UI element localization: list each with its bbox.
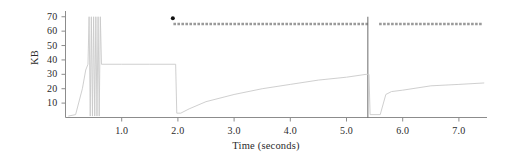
x-axis-tick-marks: [122, 118, 459, 122]
y-tick-label: 20: [28, 83, 58, 94]
line-chart: [0, 0, 512, 162]
x-tick-label: 2.0: [158, 125, 198, 136]
x-tick-label: 6.0: [383, 125, 423, 136]
marker-group: [171, 16, 175, 20]
x-tick-label: 7.0: [439, 125, 479, 136]
x-tick-label: 4.0: [270, 125, 310, 136]
y-tick-label: 30: [28, 68, 58, 79]
event-marker: [171, 16, 175, 20]
x-tick-label: 3.0: [214, 125, 254, 136]
y-tick-label: 60: [28, 25, 58, 36]
series-buffer-occupancy: [68, 17, 484, 116]
y-tick-label: 10: [28, 97, 58, 108]
y-axis-tick-marks: [62, 17, 66, 103]
series-line-buffer-occupancy: [68, 17, 484, 116]
x-tick-label: 1.0: [102, 125, 142, 136]
y-tick-label: 40: [28, 54, 58, 65]
x-tick-label: 5.0: [327, 125, 367, 136]
y-tick-label: 70: [28, 11, 58, 22]
y-tick-label: 50: [28, 40, 58, 51]
